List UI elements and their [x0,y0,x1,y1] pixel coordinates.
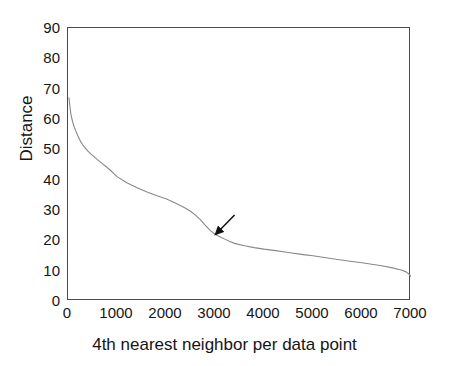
series-line-knn-distance [69,98,411,277]
data-curve [68,28,411,301]
xtick-label-2000: 2000 [141,305,189,320]
xtick-label-4000: 4000 [239,305,287,320]
xtick-label-7000: 7000 [386,305,434,320]
ytick-label-30: 30 [24,202,60,217]
ytick-label-20: 20 [24,232,60,247]
x-axis-label: 4th nearest neighbor per data point [0,336,449,353]
xtick-label-3000: 3000 [190,305,238,320]
chart-figure: 90 80 70 60 50 40 30 20 10 0 0 1000 2000… [0,0,449,366]
y-axis-label: Distance [18,59,35,199]
xtick-label-1000: 1000 [92,305,140,320]
xtick-label-0: 0 [53,305,81,320]
xtick-label-6000: 6000 [337,305,385,320]
plot-area [67,27,410,300]
ytick-label-90: 90 [24,20,60,35]
xtick-label-5000: 5000 [288,305,336,320]
ytick-label-10: 10 [24,263,60,278]
